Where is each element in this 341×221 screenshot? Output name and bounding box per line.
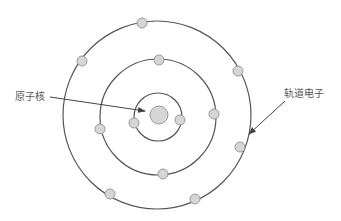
orbital-electron-arrow (249, 101, 285, 134)
electron (129, 118, 139, 128)
nucleus (150, 106, 168, 124)
electron (137, 18, 147, 28)
orbital-electron-label: 轨道电子 (284, 88, 324, 100)
electron (105, 189, 115, 199)
nucleus-label: 原子核 (15, 91, 45, 103)
electron (154, 55, 164, 65)
electron (190, 194, 200, 204)
electron (235, 142, 245, 152)
electron (158, 169, 168, 179)
atom-diagram (0, 0, 341, 221)
electron (175, 115, 185, 125)
electron (77, 56, 87, 66)
electron (233, 66, 243, 76)
electron (95, 124, 105, 134)
electron (209, 109, 219, 119)
